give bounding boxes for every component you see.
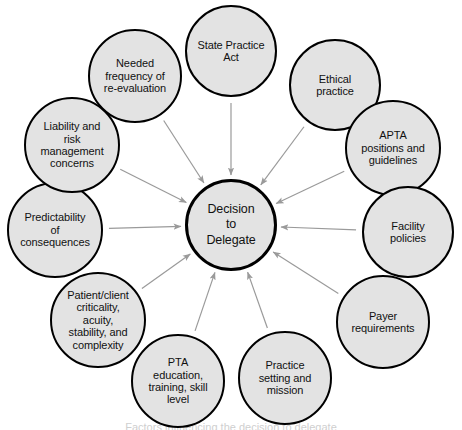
arrow-to-center-from-practice-setting-and-mission bbox=[248, 272, 268, 328]
node-apta-positions-and-guidelines: APTA positions and guidelines bbox=[345, 100, 441, 196]
delegation-factors-diagram: Decision to Delegate State Practice Act … bbox=[0, 0, 462, 430]
arrow-to-center-from-ethical-practice bbox=[261, 127, 304, 185]
arrow-to-center-from-predictability-of-consequences bbox=[109, 226, 181, 228]
node-label-apta-positions-and-guidelines: APTA positions and guidelines bbox=[355, 129, 431, 166]
node-predictability-of-consequences: Predictability of consequences bbox=[7, 182, 103, 278]
node-practice-setting-and-mission: Practice setting and mission bbox=[238, 331, 332, 425]
arrow-to-center-from-payer-requirements bbox=[273, 252, 338, 294]
node-label-facility-policies: Facility policies bbox=[384, 220, 432, 245]
node-needed-frequency-of-re-evaluation: Needed frequency of re-evaluation bbox=[88, 29, 182, 123]
node-patient-client-criticality: Patient/client criticality, acuity, stab… bbox=[50, 272, 146, 368]
arrow-to-center-from-pta-education-training-skill-level bbox=[195, 272, 215, 330]
node-label-needed-frequency-of-re-evaluation: Needed frequency of re-evaluation bbox=[98, 57, 172, 94]
figure-caption-text: Factors influencing the decision to dele… bbox=[0, 420, 462, 430]
arrow-to-center-from-liability-and-risk-management-concerns bbox=[120, 169, 186, 202]
node-decision-to-delegate: Decision to Delegate bbox=[185, 179, 277, 271]
arrow-to-center-from-facility-policies bbox=[281, 227, 356, 230]
node-label-liability-and-risk-management-concerns: Liability and risk management concerns bbox=[34, 120, 109, 170]
node-label-patient-client-criticality: Patient/client criticality, acuity, stab… bbox=[61, 289, 135, 351]
node-payer-requirements: Payer requirements bbox=[336, 275, 430, 369]
node-facility-policies: Facility policies bbox=[362, 186, 454, 278]
node-label-predictability-of-consequences: Predictability of consequences bbox=[9, 211, 101, 248]
node-label-payer-requirements: Payer requirements bbox=[346, 310, 421, 335]
node-label-decision-to-delegate: Decision to Delegate bbox=[200, 202, 261, 248]
arrow-to-center-from-needed-frequency-of-re-evaluation bbox=[164, 121, 204, 183]
node-state-practice-act: State Practice Act bbox=[185, 5, 277, 97]
arrow-to-center-from-patient-client-criticality bbox=[142, 254, 190, 289]
node-label-ethical-practice: Ethical practice bbox=[310, 73, 360, 98]
arrow-to-center-from-apta-positions-and-guidelines bbox=[276, 171, 344, 203]
node-label-pta-education-training-skill-level: PTA education, training, skill level bbox=[142, 356, 213, 406]
node-pta-education-training-skill-level: PTA education, training, skill level bbox=[131, 334, 225, 428]
node-label-state-practice-act: State Practice Act bbox=[191, 39, 270, 64]
node-label-practice-setting-and-mission: Practice setting and mission bbox=[253, 359, 318, 396]
figure-caption: Factors influencing the decision to dele… bbox=[0, 420, 462, 430]
